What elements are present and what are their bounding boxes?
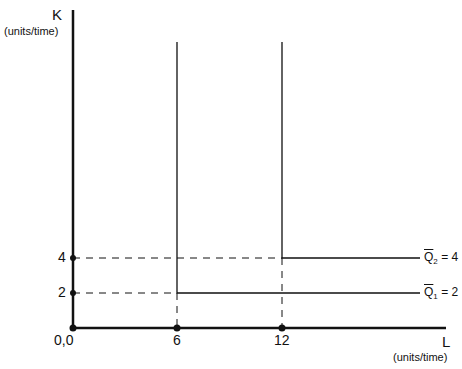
x-tick-6: 6: [173, 332, 181, 348]
origin-label: 0,0: [54, 332, 73, 348]
tick-dot-k4: [70, 255, 76, 261]
x-tick-12: 12: [274, 332, 290, 348]
isoquant-q2: [282, 42, 420, 258]
y-axis-name: K: [52, 6, 62, 23]
origin-dot: [70, 325, 77, 332]
x-axis-name: L: [442, 333, 450, 350]
tick-dot-l6: [174, 325, 181, 332]
y-tick-2: 2: [58, 284, 66, 300]
isoquant-q2-label: Q2 = 4: [424, 250, 458, 266]
tick-dot-k2: [70, 290, 76, 296]
isoquant-diagram: [0, 0, 462, 369]
tick-dot-l12: [279, 325, 286, 332]
x-axis-unit: (units/time): [393, 351, 447, 363]
isoquant-q1-label: Q1 = 2: [424, 285, 458, 301]
isoquant-q1: [177, 42, 420, 293]
y-axis-unit: (units/time): [4, 25, 58, 37]
y-tick-4: 4: [58, 249, 66, 265]
